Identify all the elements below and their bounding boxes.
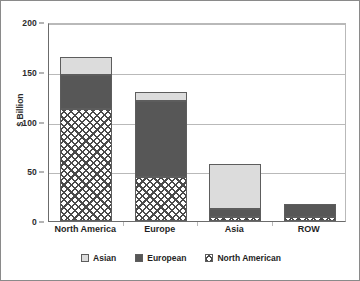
legend-item-european[interactable]: European xyxy=(135,253,186,263)
bar-segment-asian xyxy=(60,57,112,75)
x-axis-tick-label: ROW xyxy=(298,224,320,234)
legend-swatch-european-icon xyxy=(135,254,143,262)
y-axis-tick-mark xyxy=(39,72,44,73)
y-axis-tick-mark xyxy=(39,23,44,24)
bar-segment-asian xyxy=(135,92,187,101)
y-axis-tick-label: 100 xyxy=(22,118,37,128)
x-axis-tick-mark xyxy=(123,222,124,226)
bar-segment-european xyxy=(60,75,112,109)
bar-segment-european xyxy=(284,204,336,217)
bar-segment-north-american xyxy=(60,109,112,221)
legend-swatch-asian-icon xyxy=(81,254,89,262)
bar-stack xyxy=(60,22,112,221)
x-axis: North AmericaEuropeAsiaROW xyxy=(48,224,346,242)
x-axis-tick-mark xyxy=(197,222,198,226)
chart-figure: $ Billion 050100150200 North AmericaEuro… xyxy=(0,0,360,281)
bar-stack xyxy=(135,22,187,221)
plot-area xyxy=(48,23,346,222)
legend-swatch-north-american-icon xyxy=(205,254,213,262)
x-axis-tick-label: Europe xyxy=(144,224,175,234)
x-axis-tick-mark xyxy=(272,222,273,226)
bar-segment-asian xyxy=(209,164,261,209)
bar-segment-north-american xyxy=(135,177,187,221)
bar-stack xyxy=(209,22,261,221)
y-axis-tick-label: 150 xyxy=(22,68,37,78)
x-axis-tick-label: North America xyxy=(54,224,116,234)
legend-item-label: European xyxy=(147,253,186,263)
bar-segment-north-american xyxy=(284,217,336,221)
y-axis-tick-label: 0 xyxy=(32,217,37,227)
bar-segment-european xyxy=(209,209,261,217)
y-axis: 050100150200 xyxy=(1,23,44,222)
legend-item-label: North American xyxy=(217,253,280,263)
legend-item-asian[interactable]: Asian xyxy=(81,253,116,263)
chart-legend: AsianEuropeanNorth American xyxy=(1,253,360,263)
y-axis-tick-mark xyxy=(39,122,44,123)
y-axis-tick-label: 200 xyxy=(22,18,37,28)
legend-item-label: Asian xyxy=(93,253,116,263)
bar-segment-european xyxy=(135,101,187,178)
bar-stack xyxy=(284,22,336,221)
y-axis-tick-mark xyxy=(39,222,44,223)
x-axis-tick-label: Asia xyxy=(225,224,244,234)
bar-segment-north-american xyxy=(209,217,261,221)
y-axis-tick-mark xyxy=(39,172,44,173)
y-axis-tick-label: 50 xyxy=(27,167,37,177)
legend-item-north-american[interactable]: North American xyxy=(205,253,280,263)
